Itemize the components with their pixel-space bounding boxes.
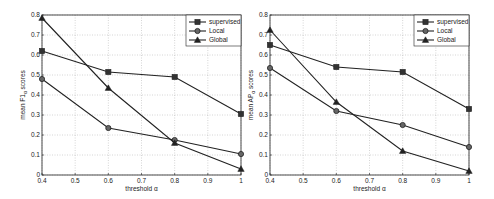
data-point-circle [106, 125, 111, 130]
data-point-square [334, 64, 339, 69]
left-chart-f1-scores: 0.40.50.60.70.80.9100.10.20.30.40.50.60.… [19, 11, 244, 192]
y-tick-label: 0.6 [31, 51, 40, 58]
x-tick-label: 0.8 [170, 177, 179, 184]
legend-label-local: Local [437, 27, 453, 34]
data-point-triangle [267, 27, 273, 33]
y-tick-label: 0.3 [259, 111, 268, 118]
y-axis-label: mean APα scores [247, 69, 256, 120]
legend-square-icon [423, 19, 428, 24]
y-tick-label: 0.2 [259, 131, 268, 138]
legend-label-supervised: supervised [437, 18, 469, 26]
data-point-triangle [399, 148, 405, 154]
legend-label-supervised: supervised [209, 18, 241, 26]
x-tick-label: 0.6 [332, 177, 341, 184]
y-tick-label: 0.5 [31, 71, 40, 78]
data-point-square [466, 106, 471, 111]
legend-circle-icon [423, 28, 428, 33]
data-point-square [106, 69, 111, 74]
x-tick-label: 0.9 [203, 177, 212, 184]
legend: supervisedLocalGlobal [186, 15, 241, 46]
data-point-circle [400, 122, 405, 127]
x-tick-label: 1 [467, 177, 471, 184]
x-tick-label: 0.5 [71, 177, 80, 184]
right-chart-ap-scores: 0.40.50.60.70.80.9100.10.20.30.40.50.60.… [247, 11, 472, 192]
data-point-square [39, 48, 44, 53]
legend-label-global: Global [209, 36, 228, 43]
y-tick-label: 0.6 [259, 51, 268, 58]
legend-label-local: Local [209, 27, 225, 34]
x-tick-label: 0.5 [299, 177, 308, 184]
y-tick-label: 0.8 [31, 11, 40, 18]
x-tick-label: 0.7 [137, 177, 146, 184]
data-point-square [400, 69, 405, 74]
data-point-circle [238, 151, 243, 156]
legend-square-icon [195, 19, 200, 24]
y-tick-label: 0.4 [259, 91, 268, 98]
data-point-circle [466, 144, 471, 149]
y-tick-label: 0.7 [31, 31, 40, 38]
data-point-square [172, 74, 177, 79]
x-tick-label: 0.6 [104, 177, 113, 184]
legend-label-global: Global [437, 36, 456, 43]
x-axis-label: threshold α [125, 185, 158, 192]
data-point-circle [267, 65, 272, 70]
x-tick-label: 1 [239, 177, 243, 184]
data-point-square [267, 42, 272, 47]
x-axis-label: threshold α [353, 185, 386, 192]
y-tick-label: 0 [264, 171, 268, 178]
x-tick-label: 0.7 [365, 177, 374, 184]
y-tick-label: 0.2 [31, 131, 40, 138]
legend: supervisedLocalGlobal [414, 15, 469, 46]
y-tick-label: 0.5 [259, 71, 268, 78]
y-tick-label: 0.8 [259, 11, 268, 18]
figure: 0.40.50.60.70.80.9100.10.20.30.40.50.60.… [0, 0, 494, 199]
y-tick-label: 0.1 [259, 151, 268, 158]
legend-circle-icon [195, 28, 200, 33]
y-tick-label: 0 [36, 171, 40, 178]
x-tick-label: 0.9 [431, 177, 440, 184]
series-line [270, 45, 469, 109]
y-tick-label: 0.3 [31, 111, 40, 118]
x-tick-label: 0.8 [398, 177, 407, 184]
data-point-circle [39, 76, 44, 81]
data-point-square [238, 111, 243, 116]
y-tick-label: 0.4 [31, 91, 40, 98]
y-tick-label: 0.1 [31, 151, 40, 158]
data-point-circle [334, 108, 339, 113]
y-axis-label: mean F1α scores [19, 70, 28, 120]
